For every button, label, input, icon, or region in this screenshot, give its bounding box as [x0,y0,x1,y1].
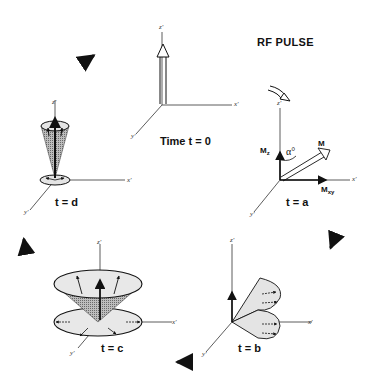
cone-top [54,270,142,298]
mz-label: Mz [260,146,270,156]
y-axis [136,105,162,134]
mxy-label: Mxy [321,185,334,195]
z-axis-label: z' [97,238,101,246]
y-axis-label: y' [70,349,75,357]
z-axis-label: z' [52,98,56,106]
x-axis-label: x' [234,100,239,108]
panel-label-td: t = d [55,196,78,208]
alpha-angle-label: α° [286,146,295,157]
y-axis-label: y' [202,350,207,358]
arrow-up-icon [24,240,26,252]
y-axis-label: y' [24,208,29,216]
y-axis-label: y' [131,132,136,140]
x-axis-label: x' [308,318,313,326]
m-label: M [318,139,325,148]
panel-label-ta: t = a [286,196,308,208]
arrow-up-right-icon [84,56,93,62]
panel-label-tc: t = c [101,342,123,354]
x-axis-label: x' [172,318,177,326]
panel-t0 [136,32,232,134]
z-axis-label: z' [277,99,281,107]
x-axis-label: x' [127,176,132,184]
z-axis-label: z' [230,236,234,244]
z-axis-label: z' [159,23,163,31]
panel-label-tb: t = b [238,342,261,354]
x-axis-label: x' [352,175,357,183]
rf-pulse-title: RF PULSE [257,36,314,48]
y-axis [254,180,280,212]
y-axis-label: y' [250,210,255,218]
magnetization-vector-icon [157,44,169,104]
panel-tb [206,244,312,352]
y-axis [206,322,232,352]
panel-label-t0: Time t = 0 [160,135,211,147]
arrow-down-icon [331,237,335,247]
panel-tc [54,244,172,348]
panel-td [30,100,125,210]
